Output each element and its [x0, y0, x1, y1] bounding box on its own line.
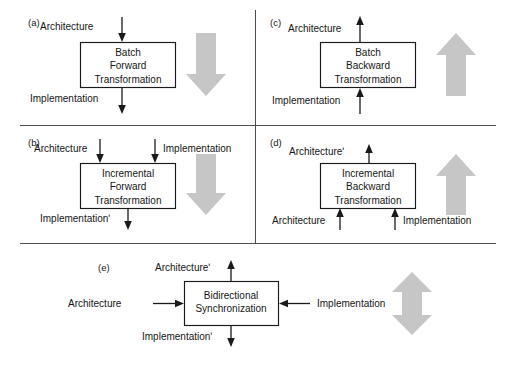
panel-a-label: (a)	[28, 17, 40, 28]
panel-d-box-line-3: Transformation	[335, 195, 402, 206]
figure-canvas: (a) Architecture Batch Forward Transform…	[0, 0, 516, 365]
panel-c-output-label-architecture: Architecture	[288, 23, 342, 34]
panel-e-input-arrow-implementation	[279, 300, 310, 308]
panel-c-input-arrow-implementation	[356, 88, 364, 114]
panel-e-box-line-2: Synchronization	[195, 303, 266, 314]
panel-e-label: (e)	[98, 262, 110, 273]
panel-c-box-line-3: Transformation	[335, 74, 402, 85]
panel-b-output-arrow-implementation-prime	[124, 208, 132, 230]
panel-b-box-line-1: Incremental	[102, 168, 154, 179]
panel-a-output-arrow-implementation	[118, 87, 126, 114]
panel-d-box-line-1: Incremental	[342, 168, 394, 179]
panel-b: (b) Architecture Implementation Incremen…	[28, 137, 231, 230]
panel-a-block-arrow-down	[186, 33, 226, 96]
panel-d-input-arrow-architecture	[336, 208, 344, 230]
panel-b-input-label-architecture: Architecture	[34, 143, 88, 154]
panel-e-output-label-implementation-prime: Implementationʹ	[142, 331, 212, 342]
panel-e-input-arrow-architecture	[153, 300, 184, 308]
panel-a-box-line-1: Batch	[115, 47, 141, 58]
panel-b-input-arrow-architecture	[96, 139, 104, 163]
panel-c-block-arrow-up	[436, 33, 476, 96]
panel-e-input-label-architecture: Architecture	[68, 298, 122, 309]
panel-d: (d) Architectureʹ Incremental Backward T…	[270, 137, 476, 230]
panel-c-output-arrow-architecture	[356, 16, 364, 43]
transformation-taxonomy-figure: (a) Architecture Batch Forward Transform…	[0, 0, 516, 365]
panel-d-output-arrow-architecture-prime	[365, 144, 373, 163]
panel-c: (c) Architecture Batch Backward Transfor…	[270, 16, 476, 114]
panel-e-block-arrow-up-down	[392, 272, 432, 335]
panel-e-output-arrow-architecture-prime	[227, 260, 235, 281]
panel-d-label: (d)	[270, 137, 282, 148]
panel-d-input-label-implementation: Implementation	[403, 215, 471, 226]
panel-c-box-line-1: Batch	[355, 47, 381, 58]
panel-c-label: (c)	[270, 17, 281, 28]
panel-d-output-label-architecture-prime: Architectureʹ	[289, 146, 344, 157]
panel-e: (e) Architectureʹ Bidirectional Synchron…	[68, 260, 432, 347]
panel-e-output-label-architecture-prime: Architectureʹ	[155, 262, 210, 273]
panel-d-input-arrow-implementation	[391, 208, 399, 230]
panel-e-box-line-1: Bidirectional	[204, 290, 258, 301]
panel-a-input-label-architecture: Architecture	[40, 21, 94, 32]
panel-a-box-line-3: Transformation	[95, 74, 162, 85]
panel-a-input-arrow-architecture	[118, 17, 126, 42]
panel-d-input-label-architecture: Architecture	[272, 215, 326, 226]
panel-c-box-line-2: Backward	[346, 60, 390, 71]
panel-d-box-line-2: Backward	[346, 181, 390, 192]
panel-b-output-label-implementation-prime: Implementationʹ	[40, 213, 110, 224]
panel-b-box-line-2: Forward	[110, 181, 147, 192]
panel-e-output-arrow-implementation-prime	[227, 325, 235, 347]
panel-e-input-label-implementation: Implementation	[317, 298, 385, 309]
panel-b-block-arrow-down	[186, 154, 226, 215]
panel-b-box-line-3: Transformation	[95, 195, 162, 206]
panel-a-output-label-implementation: Implementation	[30, 93, 98, 104]
panel-a: (a) Architecture Batch Forward Transform…	[28, 17, 226, 114]
panel-b-input-arrow-implementation	[151, 139, 159, 163]
panel-b-input-label-implementation: Implementation	[163, 143, 231, 154]
panel-c-input-label-implementation: Implementation	[272, 95, 340, 106]
panel-d-block-arrow-up	[436, 154, 476, 215]
panel-a-box-line-2: Forward	[110, 60, 147, 71]
